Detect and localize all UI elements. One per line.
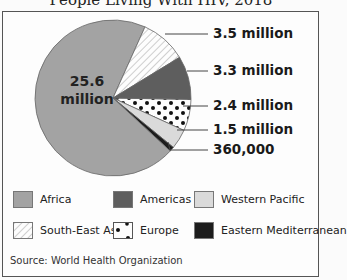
legend-label: Eastern Mediterranean xyxy=(221,224,347,237)
legend-item-africa: Africa xyxy=(13,191,71,208)
legend-item-americas: Americas xyxy=(113,191,191,208)
legend-item-europe: Europe xyxy=(113,222,179,239)
americas-data-label: 3.3 million xyxy=(213,62,293,78)
africa-data-label: 25.6 million xyxy=(52,72,122,108)
legend-label: Africa xyxy=(40,193,71,206)
europe-swatch xyxy=(113,222,133,239)
legend-label: Europe xyxy=(140,224,179,237)
legend-label: Western Pacific xyxy=(221,193,305,206)
wp-swatch xyxy=(194,191,214,208)
legend-label: Americas xyxy=(140,193,191,206)
legend-item-western-pacific: Western Pacific xyxy=(194,191,305,208)
source-note: Source: World Health Organization xyxy=(10,255,183,266)
legend-item-south-east-asia: South-East Asia xyxy=(13,222,126,239)
wp-data-label: 1.5 million xyxy=(213,121,293,137)
europe-data-label: 2.4 million xyxy=(213,97,293,113)
americas-swatch xyxy=(113,191,133,208)
em-data-label: 360,000 xyxy=(213,141,275,157)
africa-unit: million xyxy=(52,90,122,108)
sea-swatch xyxy=(13,222,33,239)
africa-value: 25.6 xyxy=(52,72,122,90)
em-swatch xyxy=(194,222,214,239)
legend-item-eastern-mediterranean: Eastern Mediterranean xyxy=(194,222,347,239)
africa-swatch xyxy=(13,191,33,208)
sea-data-label: 3.5 million xyxy=(213,25,293,41)
